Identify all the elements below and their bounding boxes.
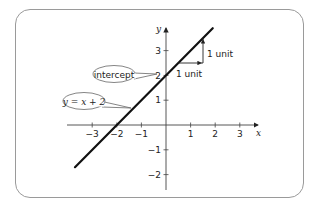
y-tick-label: −2	[148, 170, 161, 180]
x-tick-label: 1	[188, 129, 194, 139]
equation-callout-text: y = x + 2	[62, 97, 106, 107]
x-tick-label: −1	[135, 129, 148, 139]
equation-callout: y = x + 2	[62, 93, 131, 110]
rise-label: 1 unit	[207, 49, 233, 59]
x-axis-label: x	[256, 128, 261, 138]
x-tick-label: −3	[86, 129, 99, 139]
intercept-callout: intercept	[93, 66, 157, 83]
intercept-callout-text: intercept	[94, 70, 135, 80]
y-axis-label: y	[155, 24, 162, 34]
y-ticks: −2−1123	[148, 46, 169, 180]
y-tick-label: 3	[155, 46, 161, 56]
line-chart: −3−2−1123 −2−1123 x y 1 unit 1 unit inte…	[0, 0, 318, 207]
x-tick-label: 2	[212, 129, 218, 139]
y-tick-label: 1	[155, 95, 161, 105]
run-label: 1 unit	[176, 69, 202, 79]
y-tick-label: 2	[155, 71, 161, 81]
x-tick-label: 3	[237, 129, 243, 139]
y-tick-label: −1	[148, 145, 161, 155]
